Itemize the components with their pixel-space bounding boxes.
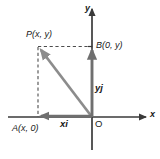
figure-canvas	[0, 0, 160, 159]
vector-components-figure: P(x, y) B(0, y) A(x, 0) xi yj x y O	[0, 0, 160, 159]
vector-op	[41, 50, 92, 117]
